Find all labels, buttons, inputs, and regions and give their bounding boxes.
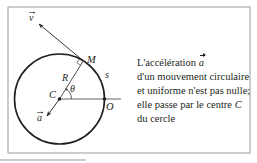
caption-line-1-text: L'accélération xyxy=(137,57,199,68)
acceleration-vector-symbol: a xyxy=(199,56,204,70)
caption-line-3: et uniforme n'est pas nulle; xyxy=(137,84,249,98)
acceleration-label: a xyxy=(37,112,42,123)
acceleration-vector xyxy=(47,99,60,116)
velocity-vector xyxy=(39,24,83,61)
caption-line-4-text: elle passe par le centre xyxy=(137,99,235,110)
center-point xyxy=(58,97,62,101)
caption-line-2: d'un mouvement circulaire xyxy=(137,70,249,84)
caption-line-4: elle passe par le centre C xyxy=(137,98,249,112)
caption-line-1: L'accélération a xyxy=(137,56,249,70)
point-m-label: M xyxy=(86,54,97,65)
radius-label: R xyxy=(61,72,68,83)
velocity-label: v xyxy=(29,12,34,23)
center-symbol: C xyxy=(235,99,242,110)
caption-line-5: du cercle xyxy=(137,112,249,126)
origin-label: O xyxy=(106,101,114,112)
arc-length-label: s xyxy=(105,69,109,80)
angle-label: θ xyxy=(70,83,75,94)
center-label: C xyxy=(49,89,57,100)
caption-text: L'accélération a d'un mouvement circulai… xyxy=(137,56,249,126)
